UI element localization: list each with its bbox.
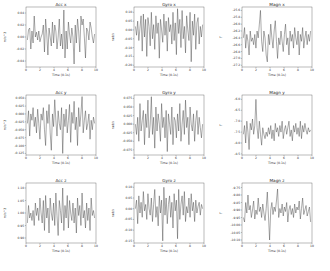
x-tick-label: 2 <box>39 156 41 160</box>
y-tick-label: -27.2 <box>232 63 240 67</box>
x-axis-label: Time (0.1s) <box>267 161 286 165</box>
y-tick-label: -9.75 <box>232 186 240 190</box>
chart-panel-acc-x: Acc x0.040.020.00-0.02-0.040246810Time (… <box>0 0 110 90</box>
y-tick-label: -0.125 <box>15 151 25 155</box>
x-tick-label: 8 <box>81 68 83 72</box>
x-tick-label: 8 <box>189 156 191 160</box>
y-tick-label: -8.5 <box>234 152 240 156</box>
chart-panel-magn-z: Magn z-9.75-9.80-9.85-9.90-9.95-10.00-10… <box>216 176 326 266</box>
x-tick-label: 10 <box>94 244 98 248</box>
x-tick-label: 0 <box>133 156 135 160</box>
y-tick-label: 0.00 <box>18 35 25 39</box>
data-series-line <box>27 188 94 236</box>
x-tick-label: 10 <box>202 68 206 72</box>
x-tick-label: 0 <box>241 68 243 72</box>
y-tick-label: -25.8 <box>232 15 240 19</box>
y-tick-label: 1.10 <box>18 186 25 190</box>
y-tick-label: -0.10 <box>124 46 132 50</box>
x-tick-label: 10 <box>310 68 314 72</box>
y-tick-label: -7.5 <box>234 130 240 134</box>
y-tick-label: -10.05 <box>231 231 241 235</box>
y-tick-label: -27.0 <box>232 56 240 60</box>
y-axis-label: rad/s <box>111 121 115 129</box>
y-tick-label: -26.0 <box>232 22 240 26</box>
chart-title: Gyro z <box>162 178 176 183</box>
x-tick-label: 10 <box>310 244 314 248</box>
x-axis-label: Time (0.1s) <box>51 161 70 165</box>
chart-title: Acc y <box>55 90 67 95</box>
x-tick-label: 8 <box>189 244 191 248</box>
y-tick-label: 0.050 <box>124 105 133 109</box>
y-tick-label: 1.05 <box>18 199 25 203</box>
data-series-line <box>27 97 94 154</box>
y-axis-label: T <box>219 36 223 39</box>
x-tick-label: 10 <box>94 68 98 72</box>
y-axis-label: m/s^2 <box>3 208 7 219</box>
x-tick-label: 2 <box>147 156 149 160</box>
y-axis-label: rad/s <box>111 33 115 41</box>
y-tick-label: -26.2 <box>232 29 240 33</box>
y-tick-label: -0.025 <box>15 120 25 124</box>
plot-frame <box>134 183 204 243</box>
plot-frame <box>242 183 312 243</box>
x-tick-label: 0 <box>241 244 243 248</box>
x-tick-label: 0 <box>133 244 135 248</box>
chart-panel-magn-x: Magn x-25.6-25.8-26.0-26.2-26.4-26.6-26.… <box>216 0 326 90</box>
line-chart: Acc z1.101.051.000.950.900246810Time (0.… <box>0 176 112 268</box>
y-tick-label: -0.10 <box>124 228 132 232</box>
line-chart: Acc y0.0500.0250.000-0.025-0.050-0.075-0… <box>0 88 112 180</box>
chart-panel-gyro-x: Gyro x0.100.050.00-0.05-0.10-0.15-0.2002… <box>108 0 218 90</box>
x-tick-label: 0 <box>133 68 135 72</box>
y-tick-label: -0.02 <box>16 47 24 51</box>
data-series-line <box>135 187 202 241</box>
y-tick-label: -7.0 <box>234 119 240 123</box>
line-chart: Gyro y0.0750.0500.0250.000-0.025-0.050-0… <box>108 88 220 180</box>
y-axis-label: T <box>219 124 223 127</box>
y-tick-label: -0.20 <box>124 63 132 67</box>
y-tick-label: 0.025 <box>16 104 25 108</box>
y-tick-label: -0.075 <box>123 148 133 152</box>
y-tick-label: 0.05 <box>126 19 133 23</box>
y-tick-label: 0.025 <box>124 114 133 118</box>
y-tick-label: 0.050 <box>16 96 25 100</box>
x-tick-label: 2 <box>255 156 257 160</box>
plot-frame <box>134 95 204 155</box>
x-tick-label: 2 <box>147 68 149 72</box>
y-tick-label: 0.02 <box>18 23 25 27</box>
y-tick-label: 0.00 <box>126 28 133 32</box>
y-tick-label: -0.15 <box>124 239 132 243</box>
y-tick-label: -9.95 <box>232 216 240 220</box>
chart-title: Gyro y <box>162 90 176 95</box>
chart-panel-acc-y: Acc y0.0500.0250.000-0.025-0.050-0.075-0… <box>0 88 110 178</box>
chart-title: Magn z <box>269 178 285 183</box>
x-tick-label: 8 <box>297 68 299 72</box>
chart-title: Magn x <box>269 2 285 7</box>
y-tick-label: -10.00 <box>231 223 241 227</box>
line-chart: Gyro x0.100.050.00-0.05-0.10-0.15-0.2002… <box>108 0 220 92</box>
x-tick-label: 8 <box>81 244 83 248</box>
y-tick-label: 0.04 <box>18 11 25 15</box>
chart-panel-acc-z: Acc z1.101.051.000.950.900246810Time (0.… <box>0 176 110 266</box>
x-axis-label: Time (0.1s) <box>267 249 286 253</box>
chart-panel-gyro-z: Gyro z0.100.050.00-0.05-0.10-0.150246810… <box>108 176 218 266</box>
y-tick-label: -0.04 <box>16 59 24 63</box>
y-tick-label: -0.15 <box>124 54 132 58</box>
y-tick-label: -9.90 <box>232 208 240 212</box>
y-tick-label: 0.075 <box>124 96 133 100</box>
y-tick-label: -26.4 <box>232 36 240 40</box>
data-series-line <box>135 9 202 62</box>
y-tick-label: 0.00 <box>126 207 133 211</box>
sensor-chart-grid: Acc x0.040.020.00-0.02-0.040246810Time (… <box>0 0 330 271</box>
y-axis-label: rad/s <box>111 209 115 217</box>
y-tick-label: 0.05 <box>126 196 133 200</box>
y-tick-label: -9.80 <box>232 193 240 197</box>
line-chart: Acc x0.040.020.00-0.02-0.040246810Time (… <box>0 0 112 92</box>
y-tick-label: -0.050 <box>123 139 133 143</box>
x-axis-label: Time (0.1s) <box>159 161 178 165</box>
line-chart: Magn y-6.0-6.5-7.0-7.5-8.0-8.50246810Tim… <box>216 88 328 180</box>
y-tick-label: 0.000 <box>124 122 133 126</box>
y-tick-label: -26.8 <box>232 50 240 54</box>
y-tick-label: -25.6 <box>232 8 240 12</box>
x-tick-label: 0 <box>241 156 243 160</box>
x-tick-label: 8 <box>81 156 83 160</box>
